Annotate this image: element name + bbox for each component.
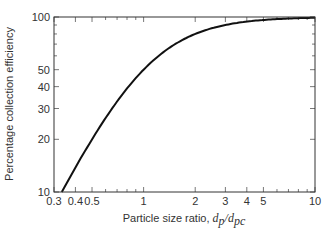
tick-label: 4 bbox=[244, 195, 250, 207]
tick-label: 5 bbox=[260, 195, 266, 207]
tick-label: 2 bbox=[192, 195, 198, 207]
tick-label: 0.4 bbox=[68, 195, 83, 207]
y-tick-labels: 1020304050100 bbox=[32, 11, 50, 198]
tick-label: 10 bbox=[38, 186, 50, 198]
tick-label: 100 bbox=[32, 11, 50, 23]
x-tick-labels: 0.30.40.51234510 bbox=[46, 195, 321, 207]
tick-label: 30 bbox=[38, 103, 50, 115]
plot-frame bbox=[54, 17, 315, 192]
tick-label: 10 bbox=[309, 195, 321, 207]
efficiency-chart: 0.30.40.51234510 1020304050100 Particle … bbox=[0, 0, 333, 240]
axis-ticks bbox=[54, 17, 315, 192]
tick-label: 0.5 bbox=[84, 195, 99, 207]
efficiency-curve bbox=[62, 18, 315, 192]
tick-label: 1 bbox=[141, 195, 147, 207]
x-axis-label: Particle size ratio, dp/dpc bbox=[123, 211, 246, 228]
tick-label: 40 bbox=[38, 81, 50, 93]
tick-label: 3 bbox=[222, 195, 228, 207]
tick-label: 20 bbox=[38, 133, 50, 145]
tick-label: 50 bbox=[38, 64, 50, 76]
y-axis-label: Percentage collection efficiency bbox=[3, 27, 15, 181]
